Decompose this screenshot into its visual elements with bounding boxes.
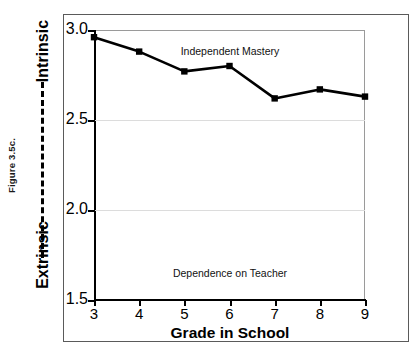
figure-caption: Figure 3.5c. — [6, 131, 17, 201]
y-tick-mark — [88, 120, 95, 122]
x-tick-label: 9 — [351, 305, 379, 322]
y-tick-mark — [88, 30, 95, 32]
annotation-independent-mastery: Independent Mastery — [94, 45, 366, 57]
y-axis-tick-labels: 3.02.52.01.5 — [44, 0, 88, 357]
y-tick-label: 2.5 — [48, 110, 88, 128]
y-tick-label: 2.0 — [48, 200, 88, 218]
y-axis-line — [94, 30, 96, 301]
y-tick-mark — [88, 210, 95, 212]
x-tick-label: 7 — [261, 305, 289, 322]
x-tick-label: 6 — [216, 305, 244, 322]
x-tick-label: 4 — [125, 305, 153, 322]
x-axis-title: Grade in School — [94, 324, 366, 342]
x-tick-label: 3 — [80, 305, 108, 322]
plot-area — [94, 30, 365, 300]
y-tick-label: 3.0 — [48, 20, 88, 38]
x-tick-label: 8 — [306, 305, 334, 322]
figure-page: Figure 3.5c. Intrinsic Extrinsic 3.02.52… — [0, 0, 417, 357]
gridline — [95, 210, 365, 211]
gridline — [95, 120, 365, 121]
x-tick-label: 5 — [170, 305, 198, 322]
annotation-dependence-on-teacher: Dependence on Teacher — [94, 267, 366, 279]
